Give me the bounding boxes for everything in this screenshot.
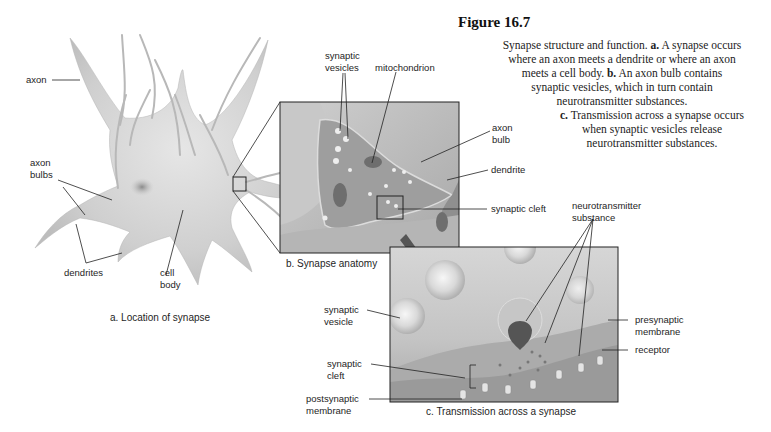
label-synaptic-vesicle-line2: vesicle	[324, 316, 353, 328]
panel-a-caption: a. Location of synapse	[110, 312, 210, 324]
label-synaptic-cleft-c-line2: cleft	[327, 370, 344, 382]
label-synaptic-vesicles-line1: synaptic	[325, 50, 360, 62]
label-postsynaptic-line2: membrane	[306, 405, 351, 417]
label-mitochondrion: mitochondrion	[375, 62, 435, 74]
label-neurotransmitter-line1: neurotransmitter	[572, 200, 641, 212]
label-synaptic-cleft-c-line1: synaptic	[327, 358, 362, 370]
caption-line: meets a cell body. b. An axon bulb conta…	[462, 66, 771, 80]
label-synaptic-vesicle-line1: synaptic	[324, 304, 359, 316]
label-presynaptic-line2: membrane	[635, 326, 680, 338]
label-receptor: receptor	[635, 344, 670, 356]
synapse-anatomy-image	[280, 102, 459, 253]
label-axon: axon	[26, 74, 47, 86]
label-cell-body-line2: body	[160, 279, 181, 291]
label-dendrite: dendrite	[491, 164, 525, 176]
figure-title: Figure 16.7	[458, 14, 530, 31]
label-axon-bulb-line2: bulb	[492, 134, 510, 146]
transmission-image	[389, 232, 618, 402]
label-axon-bulbs-line1: axon	[30, 157, 51, 169]
label-postsynaptic-line1: postsynaptic	[306, 393, 359, 405]
panel-b-caption: b. Synapse anatomy	[286, 258, 377, 270]
caption-line: c. Transmission across a synapse occurs	[462, 108, 771, 122]
label-synaptic-cleft: synaptic cleft	[491, 203, 546, 215]
label-presynaptic-line1: presynaptic	[635, 314, 684, 326]
caption-line: Synapse structure and function. a. A syn…	[462, 38, 771, 52]
label-axon-bulbs-line2: bulbs	[30, 169, 53, 181]
label-synaptic-vesicles-line2: vesicles	[325, 62, 359, 74]
label-dendrites: dendrites	[64, 267, 103, 279]
label-cell-body-line1: cell	[160, 267, 174, 279]
neuron-cell	[35, 35, 300, 285]
caption-line: where an axon meets a dendrite or where …	[462, 52, 771, 66]
caption-line: neurotransmitter substances.	[462, 94, 771, 108]
panel-c-caption: c. Transmission across a synapse	[426, 406, 576, 418]
label-neurotransmitter-line2: substance	[572, 212, 615, 224]
label-axon-bulb-line1: axon	[492, 122, 513, 134]
caption-line: synaptic vesicles, which in turn contain	[462, 80, 771, 94]
